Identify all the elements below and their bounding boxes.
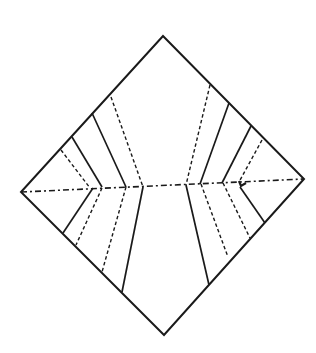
background xyxy=(0,0,316,353)
crease-pattern-diagram xyxy=(0,0,316,353)
